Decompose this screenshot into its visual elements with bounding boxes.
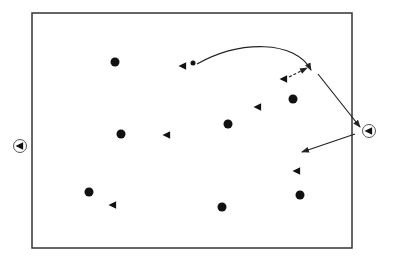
player-triangle-icon xyxy=(179,62,187,70)
player-dot xyxy=(117,130,126,139)
player-dot xyxy=(296,191,305,200)
dashed-arrow xyxy=(289,68,307,77)
player-dot xyxy=(289,95,298,104)
player-triangle-icon xyxy=(109,201,117,209)
curved-arrow xyxy=(197,47,311,70)
movement-arrows xyxy=(197,47,360,152)
drill-diagram xyxy=(0,0,394,263)
straight-arrow xyxy=(318,74,360,127)
player-triangles xyxy=(109,62,301,209)
player-dot xyxy=(218,203,227,212)
field-boundary xyxy=(32,13,352,248)
player-dot xyxy=(85,188,94,197)
player-dot xyxy=(111,58,120,67)
circled-triangle-icon xyxy=(14,140,27,153)
diagram-canvas xyxy=(0,0,394,263)
player-dot xyxy=(224,120,233,129)
player-triangle-icon xyxy=(280,75,288,83)
player-triangle-icon xyxy=(163,131,171,139)
ball-icon xyxy=(191,61,196,66)
player-triangle-icon xyxy=(293,167,301,175)
circled-triangle-icon xyxy=(363,125,376,138)
straight-arrow xyxy=(302,134,355,152)
player-dots xyxy=(85,58,305,212)
circled-players xyxy=(14,125,376,153)
player-triangle-icon xyxy=(254,103,262,111)
